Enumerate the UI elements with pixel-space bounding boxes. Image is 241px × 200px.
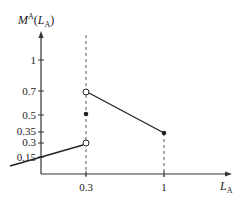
y-tick-label-0.7: 0.7: [22, 85, 36, 97]
x-axis-arrow-icon: [225, 172, 232, 177]
y-axis-title: MA(LA): [17, 12, 54, 29]
x-tick-label-0.3: 0.3: [79, 181, 93, 193]
y-tick-label-1: 1: [31, 54, 37, 66]
filled-point-1-0.35: [162, 131, 167, 136]
y-tick-label-0.5: 0.5: [22, 109, 36, 121]
line-segment-2: [89, 93, 164, 133]
x-tick-label-1: 1: [161, 181, 167, 193]
filled-point-0.3-0.5: [84, 112, 89, 117]
y-tick-label-0.3: 0.3: [22, 136, 36, 148]
open-point-0.3-0.3: [83, 140, 89, 146]
x-axis-title: LA: [219, 179, 233, 195]
y-axis-arrow-icon: [39, 31, 44, 38]
open-point-0.3-0.7: [83, 89, 89, 95]
chart-canvas: 1 0.7 0.5 0.35 0.3 0.15 0.3 1 MA(LA) LA: [0, 0, 241, 200]
